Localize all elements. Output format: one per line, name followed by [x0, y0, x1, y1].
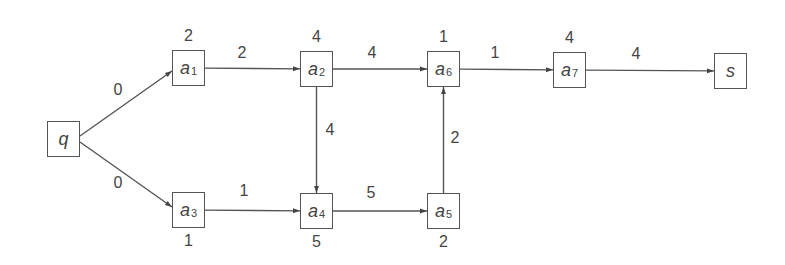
edge-a6-a7 [460, 69, 553, 70]
edge-q-a1 [80, 71, 172, 136]
node-subscript: 4 [319, 208, 325, 220]
edge-layer [0, 0, 785, 265]
edge-weight-q-a1: 0 [114, 82, 123, 98]
node-a3: a3 [172, 192, 205, 228]
node-label: a [435, 59, 445, 80]
node-a6: a6 [427, 51, 460, 87]
node-subscript: 5 [446, 208, 452, 220]
node-label: s [726, 61, 735, 82]
edge-a1-a2 [205, 68, 300, 69]
node-label: a [435, 201, 445, 222]
edge-weight-a6-a7: 1 [491, 45, 500, 61]
node-subscript: 7 [572, 67, 578, 79]
node-a7: a7 [553, 52, 586, 88]
edge-q-a3 [80, 142, 172, 207]
node-duration-a4: 5 [312, 234, 321, 250]
node-subscript: 1 [191, 65, 197, 77]
edge-a3-a4 [205, 210, 300, 211]
edge-weight-q-a3: 0 [114, 175, 123, 191]
node-q: q [47, 121, 80, 157]
node-subscript: 6 [446, 66, 452, 78]
node-a4: a4 [300, 193, 333, 229]
node-a1: a1 [172, 50, 205, 86]
node-label: a [561, 60, 571, 81]
node-label: a [180, 200, 190, 221]
node-s: s [714, 53, 747, 89]
node-subscript: 2 [319, 66, 325, 78]
node-duration-a3: 1 [184, 233, 193, 249]
edge-weight-a3-a4: 1 [240, 183, 249, 199]
edge-weight-a1-a2: 2 [238, 45, 247, 61]
edge-weight-a4-a5: 5 [367, 185, 376, 201]
node-label: a [308, 59, 318, 80]
edge-a7-s [586, 70, 714, 71]
node-duration-a6: 1 [439, 29, 448, 45]
node-label: a [308, 201, 318, 222]
node-a2: a2 [300, 51, 333, 87]
node-duration-a2: 4 [312, 29, 321, 45]
node-a5: a5 [427, 193, 460, 229]
node-label: q [58, 129, 68, 150]
node-duration-a7: 4 [565, 30, 574, 46]
edge-weight-a7-s: 4 [632, 46, 641, 62]
edge-weight-a2-a4: 4 [326, 122, 335, 138]
node-duration-a1: 2 [184, 28, 193, 44]
node-subscript: 3 [191, 207, 197, 219]
node-label: a [180, 58, 190, 79]
network-diagram: qa12a24a31a45a52a61a74s0024144152 [0, 0, 785, 265]
edge-weight-a2-a6: 4 [368, 45, 377, 61]
edge-weight-a5-a6: 2 [451, 130, 460, 146]
node-duration-a5: 2 [439, 234, 448, 250]
